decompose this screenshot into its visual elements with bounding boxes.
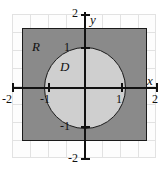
- y-tick-neg2: [81, 158, 90, 160]
- x-tick-label-neg1: -1: [40, 93, 50, 105]
- x-tick-pos2: [156, 83, 158, 92]
- x-tick-label-neg2: -2: [2, 93, 12, 105]
- y-axis-line: [84, 12, 86, 160]
- y-tick-label-pos2: 2: [72, 7, 78, 19]
- y-tick-label-pos1: 1: [64, 41, 70, 53]
- y-tick-label-neg2: -2: [68, 152, 78, 164]
- math-figure: -2 -1 1 2 2 1 -1 -2 y x R D: [0, 0, 168, 172]
- x-tick-label-pos1: 1: [116, 93, 122, 105]
- y-tick-label-neg1: -1: [60, 120, 70, 132]
- x-tick-neg2: [12, 83, 14, 92]
- x-axis-label: x: [147, 74, 153, 87]
- x-tick-neg1: [48, 83, 50, 92]
- y-tick-pos1: [81, 47, 90, 49]
- x-tick-pos1: [121, 83, 123, 92]
- y-axis-label: y: [90, 13, 96, 26]
- region-r-label: R: [32, 40, 40, 53]
- region-d-label: D: [60, 60, 69, 73]
- y-tick-neg1: [81, 126, 90, 128]
- y-tick-pos2: [81, 14, 90, 16]
- x-tick-label-pos2: 2: [152, 93, 158, 105]
